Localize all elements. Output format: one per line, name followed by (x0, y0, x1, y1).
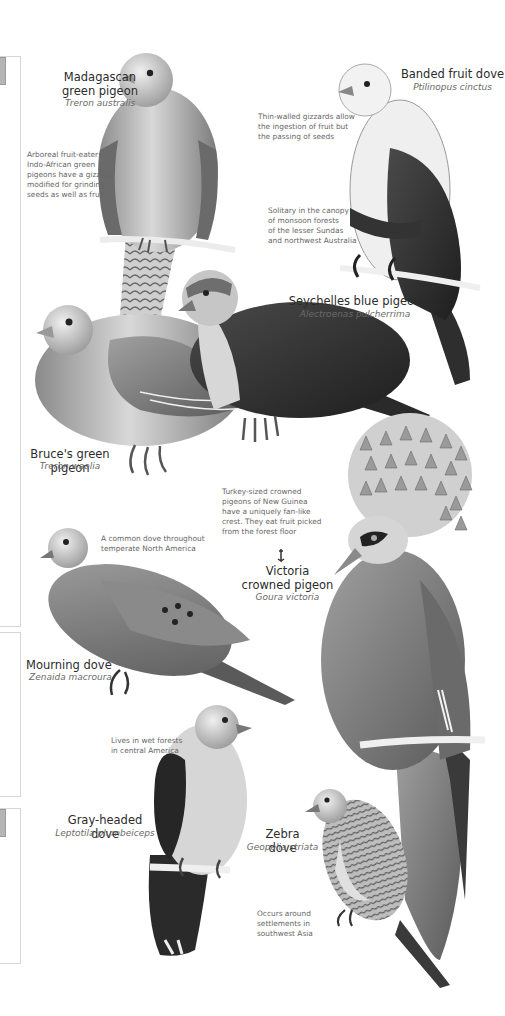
species-name-mourning: Mourning dove (20, 658, 116, 672)
species-note-zebra: Occurs around settlements in southwest A… (257, 909, 327, 939)
species-scientific-mourning: Zenaida macroura (20, 671, 119, 683)
species-scientific-madagascan: Treron australis (40, 97, 160, 109)
species-scientific-seychelles: Alectroenas pulcherrima (280, 308, 430, 320)
species-note-banded-1: Thin-walled gizzards allow the ingestion… (258, 112, 358, 142)
species-name-seychelles: Seychelles blue pigeon (280, 294, 430, 308)
species-note-madagascan: Arboreal fruit-eaters, Indo-African gree… (27, 150, 127, 200)
species-scientific-zebra: Geopelia striata (245, 841, 320, 853)
species-note-banded-2: Solitary in the canopy of monsoon forest… (268, 206, 368, 246)
species-scientific-bruces: Treron waalia (15, 460, 125, 472)
species-note-victoria: Turkey-sized crowned pigeons of New Guin… (222, 487, 332, 537)
species-name-victoria: Victoria crowned pigeon (240, 564, 335, 592)
species-note-grayheaded: Lives in wet forests in central America (111, 736, 201, 756)
species-scientific-grayheaded: Leptotila plumbeiceps (55, 827, 155, 839)
species-name-banded: Banded fruit dove (395, 67, 505, 81)
species-note-mourning: A common dove throughout temperate North… (101, 534, 211, 554)
species-scientific-victoria: Goura victoria (240, 591, 335, 603)
species-scientific-banded: Ptilinopus cinctus (395, 81, 505, 93)
pointer-icon (278, 549, 284, 561)
species-name-madagascan: Madagascan green pigeon (40, 70, 160, 98)
